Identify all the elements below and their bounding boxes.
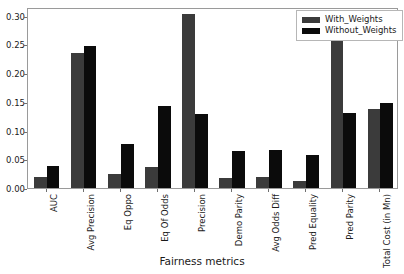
x-tick-label: Pred Equality [309, 194, 318, 250]
legend-label-with-weights: With_Weights [325, 15, 383, 24]
bar-without-weights [232, 151, 245, 188]
y-axis: 0.000.050.100.150.200.250.30 [0, 8, 25, 189]
bar-with-weights [145, 167, 158, 188]
bar-with-weights [182, 14, 195, 188]
x-tick-label: Avg Precision [87, 194, 96, 250]
y-tick-label: 0.10 [1, 127, 25, 136]
y-tick-mark [24, 74, 27, 75]
x-tick-label: Avg Odds Diff [272, 194, 281, 252]
x-tick-label: Pred Parity [346, 194, 355, 240]
chart-legend: With_Weights Without_Weights [296, 10, 403, 41]
bar-with-weights [219, 178, 232, 188]
bar-without-weights [47, 166, 60, 188]
y-tick-mark [24, 160, 27, 161]
y-tick-label: 0.00 [1, 185, 25, 194]
x-tick-mark [231, 189, 232, 192]
bar-without-weights [380, 103, 393, 188]
bar-without-weights [84, 46, 97, 189]
y-tick-mark [24, 45, 27, 46]
y-tick-label: 0.20 [1, 70, 25, 79]
legend-label-without-weights: Without_Weights [325, 26, 397, 35]
legend-swatch-without-weights [302, 28, 320, 34]
x-tick-mark [83, 189, 84, 192]
y-tick-label: 0.30 [1, 12, 25, 21]
bar-without-weights [158, 106, 171, 188]
bar-without-weights [306, 155, 319, 188]
x-tick-mark [305, 189, 306, 192]
legend-item-with-weights: With_Weights [302, 14, 397, 25]
y-tick-mark [24, 103, 27, 104]
x-tick-label: AUC [50, 194, 59, 212]
legend-swatch-with-weights [302, 17, 320, 23]
y-tick-label: 0.05 [1, 156, 25, 165]
y-tick-label: 0.25 [1, 41, 25, 50]
y-tick-mark [24, 132, 27, 133]
bar-with-weights [71, 53, 84, 188]
x-tick-mark [46, 189, 47, 192]
x-tick-label: Eq Of Odds [161, 194, 170, 242]
x-tick-mark [379, 189, 380, 192]
bar-with-weights [34, 177, 47, 188]
legend-item-without-weights: Without_Weights [302, 25, 397, 36]
bar-without-weights [195, 114, 208, 188]
x-tick-label: Precision [198, 194, 207, 232]
bar-with-weights [331, 35, 344, 188]
bar-without-weights [343, 113, 356, 188]
y-tick-mark [24, 189, 27, 190]
bar-without-weights [269, 150, 282, 188]
x-tick-label: Eq Oppo [124, 194, 133, 230]
bar-with-weights [256, 177, 269, 188]
bar-with-weights [108, 174, 121, 188]
y-tick-label: 0.15 [1, 99, 25, 108]
x-tick-mark [342, 189, 343, 192]
y-tick-mark [24, 17, 27, 18]
bar-with-weights [293, 181, 306, 188]
bar-chart-figure: 0.000.050.100.150.200.250.30 AUCAvg Prec… [0, 0, 404, 274]
bar-with-weights [368, 109, 381, 188]
bar-without-weights [121, 144, 134, 188]
x-tick-mark [268, 189, 269, 192]
x-axis-title: Fairness metrics [0, 255, 404, 267]
x-tick-mark [157, 189, 158, 192]
x-tick-label: Demo Parity [235, 194, 244, 246]
x-tick-mark [194, 189, 195, 192]
x-tick-mark [120, 189, 121, 192]
